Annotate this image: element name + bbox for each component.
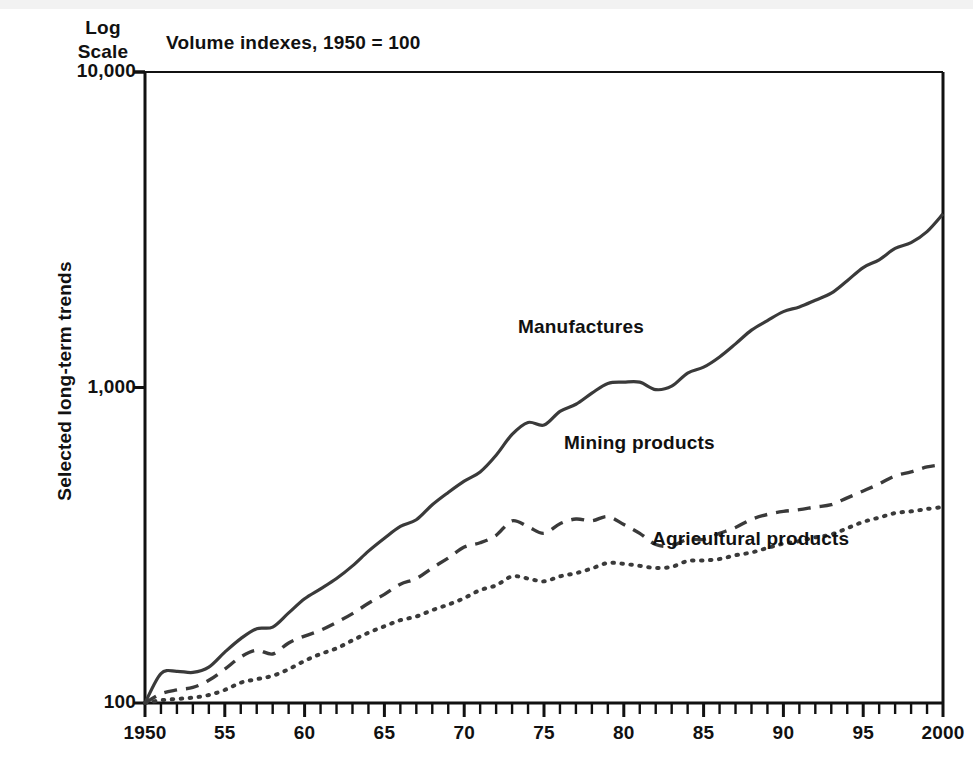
series-line-manufactures [145, 214, 943, 703]
x-tick-label-1975: 75 [533, 722, 555, 744]
series-label-mining: Mining products [564, 432, 715, 454]
log-scale-caption: Log Scale [60, 16, 146, 64]
chart-title: Volume indexes, 1950 = 100 [166, 32, 421, 54]
x-tick-label-2000: 2000 [921, 722, 964, 744]
data-series-group [145, 214, 943, 703]
x-tick-label-1990: 90 [773, 722, 795, 744]
x-tick-label-1960: 60 [294, 722, 316, 744]
x-tick-label-1950: 1950 [123, 722, 166, 744]
plot-area [0, 0, 973, 771]
x-tick-label-1955: 55 [214, 722, 236, 744]
x-tick-label-1980: 80 [613, 722, 635, 744]
x-axis-ticks [145, 703, 943, 717]
y-tick-label-1000: 1,000 [16, 376, 136, 398]
axis-lines [133, 72, 943, 703]
series-line-mining-products [145, 465, 943, 703]
y-tick-label-100: 100 [16, 691, 136, 713]
x-tick-label-1965: 65 [374, 722, 396, 744]
series-label-agricultural: Agricultural products [652, 528, 849, 550]
x-tick-label-1970: 70 [453, 722, 475, 744]
series-label-manufactures: Manufactures [518, 316, 644, 338]
log-scale-line-1: Log [60, 16, 146, 40]
top-band [0, 0, 973, 9]
chart-figure: Log Scale Volume indexes, 1950 = 100 Sel… [0, 0, 973, 771]
x-tick-label-1995: 95 [852, 722, 874, 744]
x-tick-label-1985: 85 [693, 722, 715, 744]
y-tick-label-10000: 10,000 [16, 60, 136, 82]
